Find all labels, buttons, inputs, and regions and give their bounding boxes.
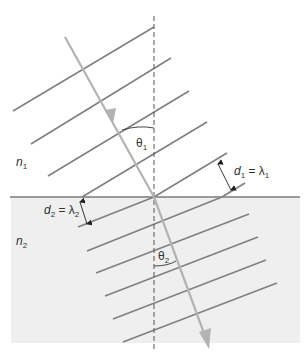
refraction-diagram: n1 n2 θ1 θ2 d1 = λ1 d2 = λ2 bbox=[0, 0, 308, 356]
incident-wavefronts bbox=[13, 27, 245, 197]
theta1-label: θ1 bbox=[136, 136, 147, 152]
d2-lambda2-label: d2 = λ2 bbox=[44, 203, 79, 219]
theta1-arc bbox=[122, 127, 154, 130]
d1-lambda1-label: d1 = λ1 bbox=[234, 164, 269, 180]
theta2-label: θ2 bbox=[158, 249, 169, 265]
n1-label: n1 bbox=[16, 155, 27, 171]
incident-ray-arrowhead bbox=[105, 108, 116, 124]
n2-label: n2 bbox=[16, 234, 27, 250]
d1-spacing-arrow bbox=[218, 164, 231, 190]
